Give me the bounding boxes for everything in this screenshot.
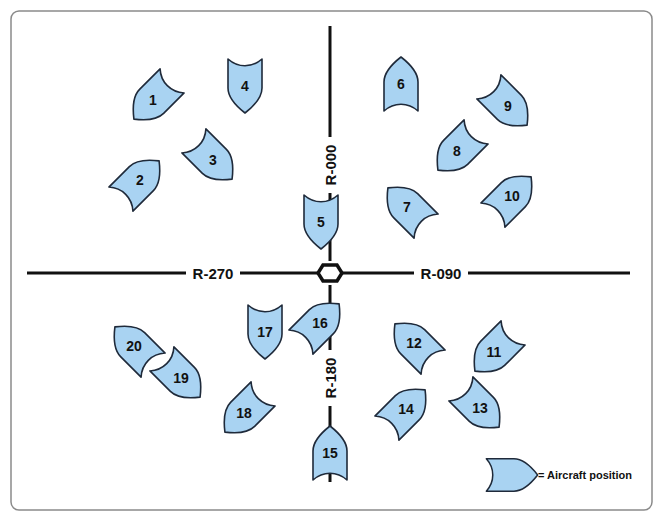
aircraft-number: 2	[136, 172, 144, 188]
svg-text:R-270: R-270	[193, 265, 234, 282]
aircraft-number: 7	[403, 199, 411, 215]
aircraft-number: 15	[322, 445, 338, 461]
aircraft-number: 12	[406, 335, 422, 351]
aircraft-number: 17	[257, 324, 273, 340]
aircraft-number: 1	[149, 92, 157, 108]
aircraft-number: 18	[236, 405, 252, 421]
radial-label-west: R-270	[186, 264, 240, 282]
svg-text:R-000: R-000	[322, 145, 339, 186]
aircraft-number: 10	[504, 188, 520, 204]
aircraft-number: 6	[397, 76, 405, 92]
aircraft-number: 4	[241, 78, 249, 94]
svg-text:R-090: R-090	[421, 265, 462, 282]
radial-label-east: R-090	[414, 264, 468, 282]
aircraft-number: 19	[173, 370, 189, 386]
aircraft-number: 8	[453, 143, 461, 159]
aircraft-number: 20	[126, 338, 142, 354]
svg-text:R-180: R-180	[322, 358, 339, 399]
aircraft-number: 11	[487, 344, 502, 360]
legend-text: = Aircraft position	[538, 469, 632, 481]
aircraft-number: 3	[209, 152, 217, 168]
radial-label-south: R-180	[321, 350, 339, 406]
vor-radial-diagram: R-270 R-090 R-000 R-180 1234567891011121…	[0, 0, 661, 521]
aircraft-number: 5	[317, 214, 325, 230]
aircraft-number: 16	[312, 315, 328, 331]
vor-station-icon	[318, 265, 342, 281]
aircraft-number: 13	[472, 400, 488, 416]
radial-label-north: R-000	[321, 137, 339, 193]
aircraft-number: 9	[504, 98, 512, 114]
aircraft-number: 14	[398, 401, 414, 417]
